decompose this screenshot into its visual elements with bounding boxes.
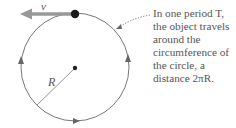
direction-arrow-left-icon (18, 56, 24, 64)
caption-pointer (118, 15, 150, 28)
caption-line: the circle, a (153, 59, 236, 72)
radius-label: R (47, 75, 56, 89)
caption: In one period T, the object travels arou… (153, 7, 236, 85)
center-dot (73, 66, 77, 70)
caption-line: around the (153, 33, 236, 46)
object-dot (71, 10, 79, 18)
caption-line: the object travels (153, 20, 236, 33)
velocity-label: v⃗ (41, 0, 54, 12)
direction-arrow-right-icon (125, 54, 131, 62)
caption-line: circumference of (153, 46, 236, 59)
velocity-arrowhead-icon (20, 9, 32, 20)
radius-line (37, 68, 75, 105)
caption-line: distance 2πR. (153, 72, 236, 85)
caption-line: In one period T, (153, 7, 236, 20)
direction-arrow-bottom-icon (73, 118, 80, 124)
pointer-arrowhead-icon (116, 24, 122, 29)
